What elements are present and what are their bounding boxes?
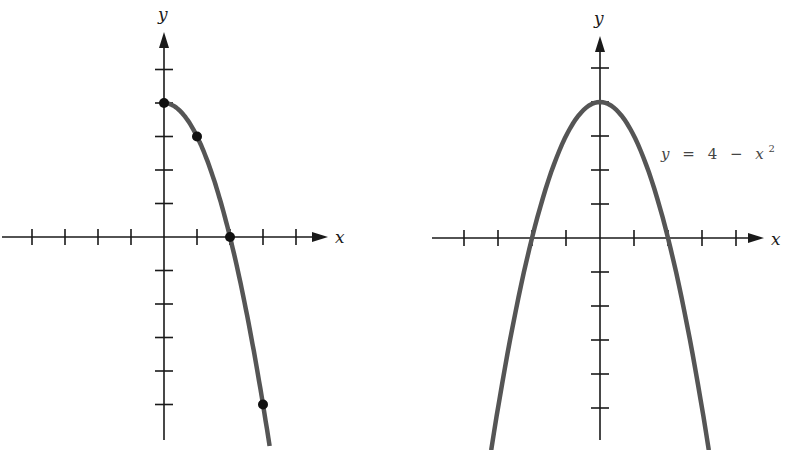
equation-label: y = 4 − x 2 (660, 143, 775, 163)
left-points (159, 98, 268, 410)
left-x-label: x (335, 227, 345, 247)
left-x-arrow-icon (312, 232, 328, 242)
right-x-arrow-icon (748, 233, 764, 243)
left-y-arrow-icon (159, 32, 169, 48)
graphs-canvas: x y x y y = 4 − x 2 (0, 0, 785, 450)
left-y-label: y (157, 4, 168, 24)
data-point (159, 98, 169, 108)
data-point (225, 232, 235, 242)
right-graph: x y y = 4 − x 2 (432, 8, 781, 450)
left-graph: x y (2, 4, 345, 446)
data-point (192, 132, 202, 142)
right-y-label: y (593, 8, 604, 28)
right-x-label: x (771, 229, 781, 249)
left-curve (164, 103, 270, 446)
right-y-arrow-icon (595, 36, 605, 52)
data-point (258, 400, 268, 410)
